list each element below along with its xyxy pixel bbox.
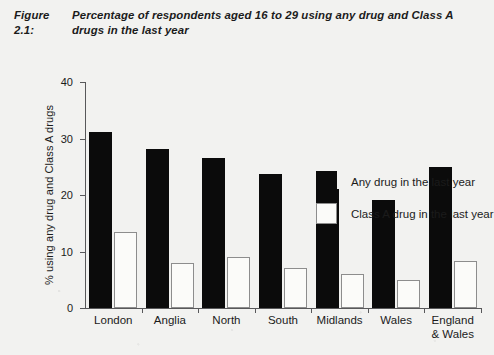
x-category-label: Midlands	[311, 314, 368, 328]
y-tick: 0	[80, 308, 85, 309]
bar	[259, 174, 282, 308]
figure-page: Figure 2.1:Percentage of respondents age…	[0, 0, 494, 355]
x-category-label: North	[198, 314, 255, 328]
bar	[227, 257, 250, 308]
x-category-label: South	[255, 314, 312, 328]
x-category-label: England & Wales	[424, 314, 481, 341]
x-category-label: Wales	[368, 314, 425, 328]
y-axis-title-label: % using any drug and Class A drugs	[43, 105, 55, 285]
bar	[171, 263, 194, 308]
x-tick	[481, 308, 482, 313]
x-tick	[311, 308, 312, 313]
legend-swatch-class-a	[316, 203, 337, 224]
bar	[89, 132, 112, 308]
legend-item: Any drug in the last year	[316, 171, 494, 192]
x-category-label: Anglia	[142, 314, 199, 328]
figure-title: Figure 2.1:Percentage of respondents age…	[14, 8, 482, 38]
y-tick-label: 40	[61, 76, 73, 88]
y-tick: 30	[80, 139, 85, 140]
y-tick: 40	[80, 82, 85, 83]
legend-item: Class A drug in the last year	[316, 203, 494, 224]
y-axis-title: % using any drug and Class A drugs	[41, 82, 57, 308]
legend-label-any-drug: Any drug in the last year	[351, 176, 475, 188]
y-tick-label: 30	[61, 133, 73, 145]
legend-label-class-a: Class A drug in the last year	[351, 208, 494, 220]
bar	[284, 268, 307, 308]
y-tick: 20	[80, 195, 85, 196]
x-tick	[255, 308, 256, 313]
bar	[397, 280, 420, 308]
bar	[454, 261, 477, 308]
y-tick-label: 10	[61, 246, 73, 258]
legend-swatch-any-drug	[316, 171, 337, 192]
bar	[341, 274, 364, 308]
x-tick	[424, 308, 425, 313]
y-axis-line	[85, 82, 86, 309]
y-tick: 10	[80, 252, 85, 253]
bar	[114, 232, 137, 308]
chart-legend: Any drug in the last year Class A drug i…	[316, 171, 494, 235]
plot-area: 010203040 LondonAngliaNorthSouthMidlands…	[85, 82, 481, 308]
y-tick-label: 20	[61, 189, 73, 201]
y-tick-label: 0	[67, 302, 73, 314]
x-axis-line	[85, 308, 482, 309]
figure-number: Figure 2.1:	[14, 8, 72, 38]
x-tick	[368, 308, 369, 313]
bar	[202, 158, 225, 308]
x-category-label: London	[85, 314, 142, 328]
bar	[146, 149, 169, 308]
figure-caption: Percentage of respondents aged 16 to 29 …	[72, 8, 472, 38]
x-tick	[142, 308, 143, 313]
x-tick	[198, 308, 199, 313]
